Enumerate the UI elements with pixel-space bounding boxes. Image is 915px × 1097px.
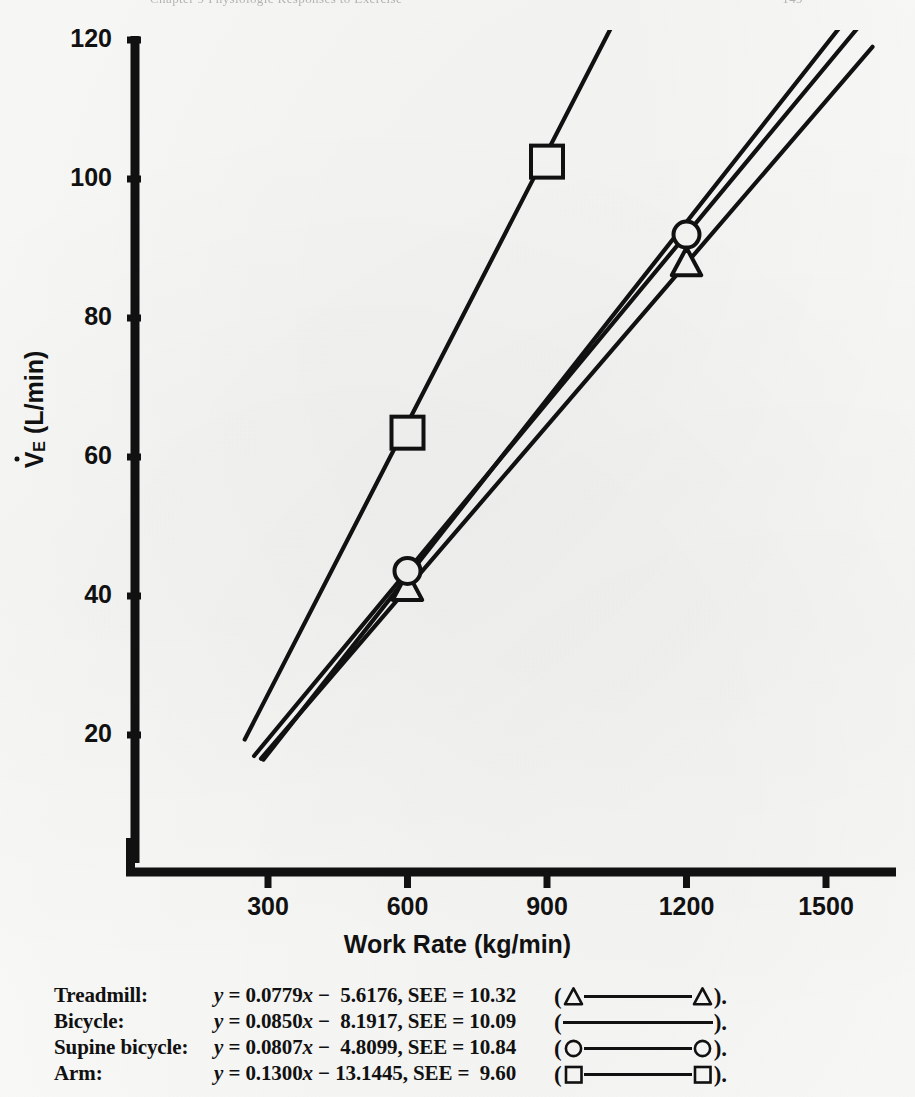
legend-series-name: Supine bicycle: <box>54 1035 214 1060</box>
legend-row: Bicycle:y = 0.0850x − 8.1917, SEE = 10.0… <box>54 1009 915 1035</box>
legend-key: (). <box>554 1011 774 1034</box>
y-axis-title: VE (L/min) <box>20 310 49 510</box>
circle-legend-icon <box>692 1038 713 1059</box>
data-point-arm-600 <box>392 417 424 449</box>
legend-sample-line <box>563 986 713 1007</box>
legend-key: (). <box>554 1037 774 1060</box>
triangle-legend-icon <box>692 986 713 1007</box>
y-tick-label-40: 40 <box>2 580 112 609</box>
data-point-supine-bicycle-600 <box>395 558 421 584</box>
legend-paren-open: ( <box>554 1063 562 1086</box>
triangle-legend-icon <box>563 986 584 1007</box>
legend-paren-close: ). <box>714 985 727 1008</box>
legend-key: (). <box>554 985 774 1008</box>
legend-paren-close: ). <box>714 1037 727 1060</box>
legend-paren-close: ). <box>714 1011 727 1034</box>
figure-ve-vs-work-rate: VE (L/min) Work Rate (kg/min) 2040608010… <box>0 0 915 1097</box>
legend-line-segment <box>563 1021 713 1024</box>
legend-series-name: Bicycle: <box>54 1009 214 1034</box>
legend-series-name: Treadmill: <box>54 983 214 1008</box>
legend-paren-open: ( <box>554 985 562 1008</box>
legend-series-name: Arm: <box>54 1061 214 1086</box>
x-tick-label-300: 300 <box>208 892 328 921</box>
legend-line-segment <box>584 1047 692 1050</box>
legend-sample-line <box>563 1064 713 1085</box>
y-tick-label-60: 60 <box>2 441 112 470</box>
x-axis-title: Work Rate (kg/min) <box>0 930 915 959</box>
legend-line-segment <box>584 1073 692 1076</box>
legend-paren-close: ). <box>714 1063 727 1086</box>
regression-line-treadmill <box>261 47 872 759</box>
x-tick-label-900: 900 <box>487 892 607 921</box>
y-tick-label-100: 100 <box>2 163 112 192</box>
data-point-arm-900 <box>531 146 563 178</box>
y-tick-label-20: 20 <box>2 719 112 748</box>
series-layer <box>245 0 873 760</box>
x-tick-label-600: 600 <box>348 892 468 921</box>
legend-equation: y = 0.0850x − 8.1917, SEE = 10.09 <box>214 1009 554 1034</box>
legend-equation: y = 0.1300x − 13.1445, SEE = 9.60 <box>214 1061 554 1086</box>
legend-equation: y = 0.0807x − 4.8099, SEE = 10.84 <box>214 1035 554 1060</box>
axes-layer <box>126 36 896 888</box>
legend-line-segment <box>584 995 692 998</box>
circle-legend-icon <box>563 1038 584 1059</box>
square-legend-icon <box>563 1064 584 1085</box>
square-legend-icon <box>692 1064 713 1085</box>
legend-row: Treadmill:y = 0.0779x − 5.6176, SEE = 10… <box>54 983 915 1009</box>
legend-row: Arm:y = 0.1300x − 13.1445, SEE = 9.60(). <box>54 1061 915 1087</box>
legend-sample-line <box>563 1038 713 1059</box>
legend-key: (). <box>554 1063 774 1086</box>
legend-equation: y = 0.0779x − 5.6176, SEE = 10.32 <box>214 983 554 1008</box>
y-axis-units: (L/min) <box>20 351 48 434</box>
plot-area <box>0 0 915 970</box>
x-tick-label-1500: 1500 <box>766 892 886 921</box>
y-tick-label-120: 120 <box>2 24 112 53</box>
legend-paren-open: ( <box>554 1037 562 1060</box>
y-tick-label-80: 80 <box>2 302 112 331</box>
x-tick-label-1200: 1200 <box>627 892 747 921</box>
legend-sample-line <box>563 1021 713 1024</box>
data-point-supine-bicycle-1200 <box>674 222 700 248</box>
legend: Treadmill:y = 0.0779x − 5.6176, SEE = 10… <box>54 983 915 1087</box>
legend-row: Supine bicycle:y = 0.0807x − 4.8099, SEE… <box>54 1035 915 1061</box>
legend-paren-open: ( <box>554 1011 562 1034</box>
